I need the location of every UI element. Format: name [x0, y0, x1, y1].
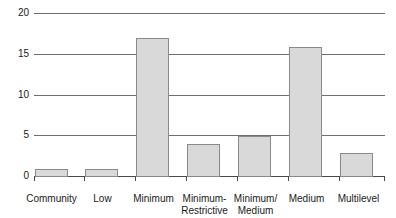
- bar-minimum-restrictive: [187, 144, 220, 177]
- xtick-7: [384, 177, 385, 181]
- xtick-label-minimum: Minimum: [127, 193, 180, 205]
- ytick-label-20: 20: [18, 8, 29, 18]
- gridline-20: 20: [34, 13, 385, 14]
- xtick-5: [288, 177, 289, 181]
- xtick-label-minimum-restrictive: Minimum- Restrictive: [176, 193, 233, 216]
- xtick-label-medium: Medium: [280, 193, 333, 205]
- gridline-10: 10: [34, 95, 385, 96]
- xtick-3: [186, 177, 187, 181]
- xtick-label-multilevel: Multilevel: [330, 193, 387, 205]
- xtick-6: [339, 177, 340, 181]
- bar-medium: [289, 47, 322, 177]
- gridline-5: 5: [34, 135, 385, 136]
- xtick-2: [135, 177, 136, 181]
- bar-minimum-medium: [238, 136, 271, 177]
- xtick-label-community: Community: [25, 193, 78, 205]
- bar-community: [35, 169, 68, 177]
- ytick-label-10: 10: [18, 90, 29, 100]
- ytick-label-15: 15: [18, 49, 29, 59]
- gridline-15: 15: [34, 54, 385, 55]
- xtick-label-low: Low: [76, 193, 129, 205]
- ytick-label-5: 5: [23, 130, 29, 140]
- xtick-label-minimum-medium: Minimum/ Medium: [229, 193, 282, 216]
- bar-low: [85, 169, 118, 177]
- bar-chart: 20 15 10 5 0 Community Low: [0, 0, 396, 218]
- bar-multilevel: [340, 153, 373, 177]
- xtick-1: [84, 177, 85, 181]
- plot-area: 20 15 10 5 0 Community Low: [34, 14, 385, 177]
- bar-minimum: [136, 38, 169, 177]
- xtick-0: [34, 177, 35, 181]
- xtick-4: [237, 177, 238, 181]
- ytick-label-0: 0: [23, 171, 29, 181]
